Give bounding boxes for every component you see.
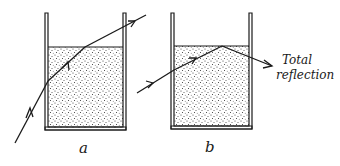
panel-label-a: a — [79, 139, 88, 157]
liquid-a — [48, 47, 123, 128]
panel-label-b: b — [205, 138, 215, 156]
annotation-reflection: reflection — [276, 69, 334, 82]
refraction-diagram — [0, 0, 340, 166]
container-b — [171, 13, 252, 129]
liquid-b — [174, 46, 249, 127]
annotation-total: Total — [282, 54, 312, 67]
container-a — [45, 13, 126, 130]
